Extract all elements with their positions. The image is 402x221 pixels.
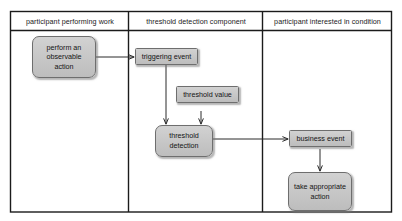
node-perform-observable-action[interactable]: perform an observable action bbox=[32, 36, 96, 78]
lane-header-participant-interested-in-condition: participant interested in condition bbox=[263, 12, 392, 30]
node-label: threshold value bbox=[180, 90, 235, 100]
lane-header-threshold-detection-component: threshold detection component bbox=[129, 12, 263, 30]
node-threshold-value[interactable]: threshold value bbox=[176, 86, 239, 103]
node-threshold-detection[interactable]: threshold detection bbox=[155, 125, 213, 157]
node-take-appropriate-action[interactable]: take appropriate action bbox=[288, 172, 352, 211]
node-label: take appropriate action bbox=[289, 182, 351, 201]
lane-header-label: participant interested in condition bbox=[274, 17, 381, 26]
lane-header-label: threshold detection component bbox=[146, 17, 246, 26]
lane-header-label: participant performing work bbox=[26, 17, 114, 26]
diagram-canvas: participant performing work threshold de… bbox=[0, 0, 402, 221]
node-triggering-event[interactable]: triggering event bbox=[135, 48, 198, 65]
node-label: threshold detection bbox=[156, 131, 212, 150]
node-label: perform an observable action bbox=[33, 43, 95, 72]
lane-header-participant-performing-work: participant performing work bbox=[11, 12, 129, 30]
node-label: business event bbox=[294, 134, 348, 144]
node-business-event[interactable]: business event bbox=[289, 130, 352, 147]
node-label: triggering event bbox=[139, 52, 195, 62]
